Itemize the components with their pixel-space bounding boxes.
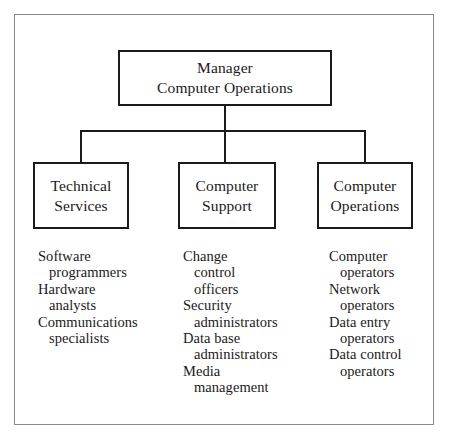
role-line: programmers <box>38 264 168 280</box>
role-line: control <box>183 264 318 280</box>
node-title-line: Manager <box>120 58 330 78</box>
role-line: management <box>183 379 318 395</box>
role-line: Media <box>183 363 318 379</box>
role-line: Network <box>329 281 449 297</box>
role-line: Hardware <box>38 281 168 297</box>
node-title-line: Services <box>35 196 127 216</box>
role-line: Computer <box>329 248 449 264</box>
role-line: Data entry <box>329 314 449 330</box>
connector-root-drop <box>224 106 226 132</box>
role-line: operators <box>329 264 449 280</box>
role-line: specialists <box>38 330 168 346</box>
role-line: Software <box>38 248 168 264</box>
node-manager-computer-operations: Manager Computer Operations <box>118 50 332 106</box>
role-list-computer-operations: Computer operators Network operators Dat… <box>329 248 449 379</box>
node-title-line: Operations <box>319 196 411 216</box>
node-title-line: Computer Operations <box>120 78 330 98</box>
role-line: Security <box>183 297 318 313</box>
node-title-line: Computer <box>180 176 274 196</box>
role-line: officers <box>183 281 318 297</box>
role-line: Change <box>183 248 318 264</box>
role-line: Data control <box>329 346 449 362</box>
role-list-computer-support: Change control officers Security adminis… <box>183 248 318 396</box>
role-line: administrators <box>183 314 318 330</box>
connector-horizontal-bus <box>80 130 366 132</box>
role-line: Communications <box>38 314 168 330</box>
role-line: operators <box>329 330 449 346</box>
role-line: operators <box>329 297 449 313</box>
role-line: administrators <box>183 346 318 362</box>
node-technical-services: Technical Services <box>33 162 129 229</box>
role-line: analysts <box>38 297 168 313</box>
node-title-line: Computer <box>319 176 411 196</box>
role-line: operators <box>329 363 449 379</box>
connector-drop-technical-services <box>80 130 82 162</box>
connector-drop-computer-operations <box>364 130 366 162</box>
node-computer-support: Computer Support <box>178 162 276 229</box>
org-chart-page: Manager Computer Operations Technical Se… <box>0 0 453 445</box>
node-title-line: Support <box>180 196 274 216</box>
node-title-line: Technical <box>35 176 127 196</box>
role-line: Data base <box>183 330 318 346</box>
role-list-technical-services: Software programmers Hardware analysts C… <box>38 248 168 346</box>
connector-drop-computer-support <box>224 130 226 162</box>
node-computer-operations: Computer Operations <box>317 162 413 229</box>
